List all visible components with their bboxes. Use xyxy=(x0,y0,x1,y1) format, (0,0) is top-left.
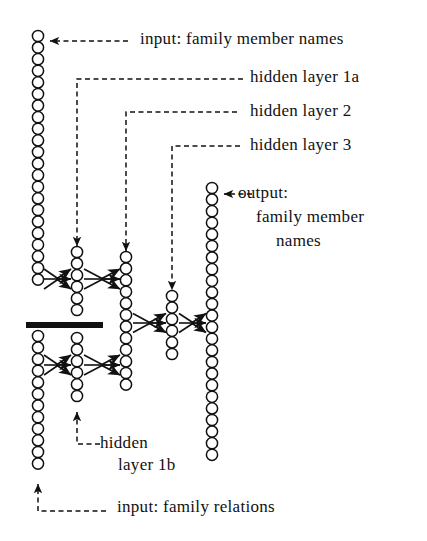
leader-hidden-1b xyxy=(77,412,100,444)
node-group-output-block xyxy=(206,182,217,460)
network-node xyxy=(32,435,43,446)
network-node xyxy=(166,348,177,359)
label-hidden-layer-2: hidden layer 2 xyxy=(250,102,351,120)
connection-stroke xyxy=(179,323,194,333)
connection-arrow xyxy=(101,355,120,365)
network-node xyxy=(32,158,43,169)
label-hidden-layer-1b-line-2: layer 1b xyxy=(118,456,176,474)
leader-hidden-2 xyxy=(126,112,237,251)
network-node xyxy=(206,322,217,333)
connection-arrow xyxy=(101,279,120,289)
network-node xyxy=(206,380,217,391)
network-node xyxy=(120,333,131,344)
network-node xyxy=(71,293,82,304)
connection-arrow xyxy=(57,269,72,279)
network-node xyxy=(206,391,217,402)
connection-stroke xyxy=(84,365,103,375)
network-node xyxy=(32,100,43,111)
network-node xyxy=(206,217,217,228)
network-node xyxy=(206,194,217,205)
connection-arrow xyxy=(101,365,120,375)
node-column-hidden-layer-3 xyxy=(166,290,177,359)
label-input-family-member-names: input: family member names xyxy=(140,30,344,48)
node-group-input-names-upper-block xyxy=(32,30,43,285)
network-node xyxy=(32,423,43,434)
network-node xyxy=(32,228,43,239)
network-node xyxy=(32,400,43,411)
network-node xyxy=(32,216,43,227)
network-node xyxy=(206,310,217,321)
network-node xyxy=(32,42,43,53)
connection-stroke xyxy=(84,279,103,289)
conn-1b-to-layer2-lower xyxy=(84,355,120,375)
connection-arrow xyxy=(57,365,72,375)
network-node xyxy=(71,356,82,367)
connection-stroke xyxy=(179,314,194,324)
network-graphics xyxy=(0,0,427,541)
network-node xyxy=(120,251,131,262)
network-node xyxy=(120,275,131,286)
connection-arrow xyxy=(192,323,207,333)
node-group-hidden-layer-1a xyxy=(71,246,82,315)
network-node xyxy=(32,239,43,250)
network-node xyxy=(206,368,217,379)
network-node xyxy=(32,65,43,76)
leader-input-relations xyxy=(38,484,106,511)
network-node xyxy=(206,229,217,240)
network-node xyxy=(71,390,82,401)
node-group-input-relations-lower-block xyxy=(32,330,43,469)
connection-arrow xyxy=(101,269,120,279)
connection-stroke xyxy=(84,355,103,365)
network-node xyxy=(206,206,217,217)
network-node xyxy=(71,270,82,281)
network-node xyxy=(32,251,43,262)
conn-input-upper-to-1a xyxy=(44,269,71,289)
network-node xyxy=(206,449,217,460)
network-node xyxy=(32,342,43,353)
network-node xyxy=(206,264,217,275)
network-node xyxy=(120,367,131,378)
network-node xyxy=(120,344,131,355)
network-node xyxy=(166,314,177,325)
network-node xyxy=(206,298,217,309)
network-node xyxy=(32,88,43,99)
network-node xyxy=(120,321,131,332)
neural-network-diagram: input: family member names hidden layer … xyxy=(0,0,427,541)
network-node xyxy=(32,412,43,423)
network-node xyxy=(32,262,43,273)
network-node xyxy=(206,345,217,356)
network-node xyxy=(32,377,43,388)
network-node xyxy=(206,426,217,437)
label-hidden-layer-1b-line-1: hidden xyxy=(100,434,148,452)
network-node xyxy=(206,182,217,193)
connection-stroke xyxy=(44,279,59,289)
network-node xyxy=(206,275,217,286)
connection-stroke xyxy=(44,365,59,375)
connection-arrow xyxy=(149,323,167,333)
leader-hidden-1a xyxy=(77,79,243,246)
network-node xyxy=(120,379,131,390)
network-node xyxy=(71,379,82,390)
node-group-hidden-layer-2-block xyxy=(120,251,131,390)
label-output-line-3: names xyxy=(276,232,321,250)
network-node xyxy=(32,446,43,457)
label-output-line-2: family member xyxy=(256,208,364,226)
connection-stroke xyxy=(84,269,103,279)
conn-layer3-to-output xyxy=(179,314,206,333)
network-node xyxy=(32,112,43,123)
network-node xyxy=(206,403,217,414)
network-node xyxy=(166,325,177,336)
network-node xyxy=(71,332,82,343)
conn-input-lower-to-1b xyxy=(44,355,71,375)
connection-arrow xyxy=(57,279,72,289)
connection-arrow xyxy=(57,355,72,365)
network-node xyxy=(32,77,43,88)
network-node xyxy=(120,263,131,274)
connection-stroke xyxy=(44,355,59,365)
network-node xyxy=(32,458,43,469)
network-node xyxy=(206,438,217,449)
network-node xyxy=(206,240,217,251)
network-node xyxy=(206,252,217,263)
network-node xyxy=(120,309,131,320)
label-input-family-relations: input: family relations xyxy=(117,498,275,516)
